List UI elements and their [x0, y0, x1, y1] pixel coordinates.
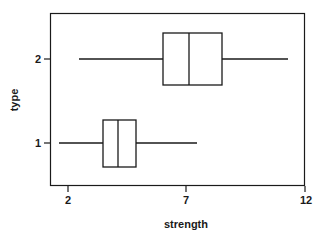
x-tick-label-2: 2 [65, 194, 71, 206]
y-axis-title: type [8, 89, 20, 112]
y-tick-label-1: 1 [35, 137, 41, 149]
x-axis-title: strength [164, 218, 208, 230]
x-tick-label-12: 12 [300, 194, 312, 206]
box-type-2 [163, 33, 222, 85]
box-type-1 [103, 120, 136, 167]
chart-canvas: 2 7 12 1 2 strength type [0, 0, 323, 239]
y-tick-label-2: 2 [35, 53, 41, 65]
boxplot-chart: 2 7 12 1 2 strength type [0, 0, 323, 239]
boxplot-group-type-2 [79, 33, 288, 85]
x-tick-label-7: 7 [183, 194, 189, 206]
boxplot-group-type-1 [59, 120, 197, 167]
